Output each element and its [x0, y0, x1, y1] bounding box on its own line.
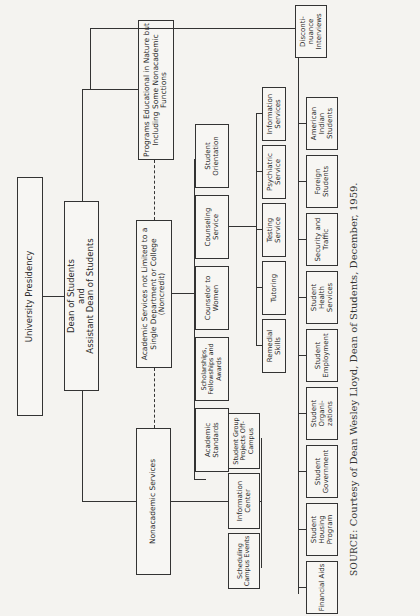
- node-programs-educational: Programs Educational in Nature but Inclu…: [138, 20, 174, 160]
- node-label: Student Organi-zations: [310, 389, 334, 438]
- node-student-organizations: Student Organi-zations: [306, 387, 338, 440]
- node-information-center: Information Center: [228, 473, 260, 529]
- connector: [298, 297, 306, 298]
- connector: [82, 501, 136, 502]
- node-student-housing-program: Student Housing Program: [306, 503, 338, 556]
- connector: [256, 171, 262, 172]
- node-label: Tutoring: [270, 274, 278, 302]
- node-student-government: Student Government: [306, 445, 338, 498]
- node-tutoring: Tutoring: [262, 261, 286, 315]
- node-label: Counselor to Women: [204, 268, 220, 328]
- node-psychiatric-service: Psychiatric Service: [262, 145, 286, 199]
- node-student-employment: Student Employment: [306, 329, 338, 382]
- connector: [256, 114, 257, 346]
- node-label: Counseling Service: [204, 197, 220, 257]
- node-student-group-projects: Student Group Projects Off-Campus: [228, 413, 260, 469]
- node-dean-of-students: Dean of Students and Assistant Dean of S…: [64, 201, 99, 391]
- connector: [298, 29, 299, 594]
- node-academic-standards: Academic Standards: [195, 408, 229, 472]
- node-counselor-to-women: Counselor to Women: [195, 266, 229, 330]
- connector: [298, 355, 306, 356]
- node-discontinuance-interviews: Disconti-nuance Interviews: [295, 5, 327, 58]
- node-financial-aids: Financial Aids: [306, 561, 338, 614]
- node-foreign-students: Foreign Students: [306, 155, 338, 208]
- node-academic-services: Academic Services not Limited to a Singl…: [136, 220, 172, 368]
- org-chart: University Presidency Dean of Students a…: [0, 0, 420, 616]
- node-label: Nonacademic Services: [149, 459, 158, 544]
- node-student-health-services: Student Health Services: [306, 271, 338, 324]
- node-scheduling-campus-events: Scheduling Campus Events: [228, 533, 260, 589]
- source-text: Courtesy of Dean Wesley Lloyd, Dean of S…: [348, 182, 359, 526]
- node-label: Information Center: [236, 475, 252, 527]
- node-information-services: Information Services: [262, 87, 286, 141]
- node-remedial-skills: Remedial Skills: [262, 319, 286, 373]
- connector: [256, 345, 262, 346]
- connector: [298, 587, 306, 588]
- dashed-connector: [154, 368, 155, 428]
- node-label: Programs Educational in Nature but Inclu…: [143, 22, 169, 158]
- connector: [298, 413, 306, 414]
- node-label: Disconti-nuance Interviews: [299, 7, 323, 56]
- node-label: Student Employment: [314, 331, 330, 380]
- connector: [256, 229, 262, 230]
- node-label: Foreign Students: [314, 157, 330, 206]
- connector: [82, 90, 83, 201]
- node-label: Student Government: [314, 447, 330, 496]
- connector: [261, 438, 262, 568]
- connector: [298, 471, 306, 472]
- node-label: Student Group Projects Off-Campus: [233, 415, 255, 467]
- connector: [298, 123, 306, 124]
- node-scholarships: Scholarships, Fellowships and Awards: [195, 337, 229, 401]
- node-nonacademic-services: Nonacademic Services: [136, 428, 171, 575]
- connector: [172, 293, 194, 294]
- connector: [256, 287, 262, 288]
- connector: [298, 529, 306, 530]
- node-label: Assistant Dean of Students: [86, 238, 96, 353]
- node-university-presidency: University Presidency: [17, 177, 43, 416]
- node-label: Academic Standards: [204, 410, 220, 470]
- connector: [298, 181, 306, 182]
- node-student-orientation: Student Orientation: [195, 124, 229, 188]
- connector: [229, 226, 256, 227]
- connector: [256, 113, 262, 114]
- connector: [82, 391, 83, 502]
- connector: [90, 29, 91, 90]
- node-label: American Indian Students: [310, 99, 334, 148]
- node-label: Academic Services not Limited to a Singl…: [141, 222, 167, 366]
- node-label: Financial Aids: [318, 564, 326, 612]
- node-label: Remedial Skills: [266, 321, 282, 371]
- node-american-indian-students: American Indian Students: [306, 97, 338, 150]
- node-label: University Presidency: [25, 251, 35, 343]
- node-label: Scholarships, Fellowships and Awards: [201, 339, 223, 399]
- node-testing-service: Testing Service: [262, 203, 286, 257]
- node-label: Scheduling Campus Events: [237, 535, 252, 587]
- node-label: Psychiatric Service: [266, 147, 282, 197]
- source-label: SOURCE:: [349, 530, 359, 577]
- node-label: Student Orientation: [204, 126, 220, 186]
- node-label: Information Services: [266, 89, 282, 139]
- node-label: Student Housing Program: [310, 505, 334, 554]
- connector: [90, 28, 298, 29]
- connector: [298, 239, 306, 240]
- node-label: Testing Service: [266, 205, 282, 255]
- node-label: Student Health Services: [310, 273, 334, 322]
- connector: [43, 296, 64, 297]
- node-security-and-traffic: Security and Traffic: [306, 213, 338, 266]
- node-label: Security and Traffic: [314, 215, 330, 264]
- connector: [194, 479, 206, 480]
- source-caption: SOURCE: Courtesy of Dean Wesley Lloyd, D…: [348, 182, 359, 576]
- node-counseling-service: Counseling Service: [195, 195, 229, 259]
- dashed-connector: [154, 160, 155, 220]
